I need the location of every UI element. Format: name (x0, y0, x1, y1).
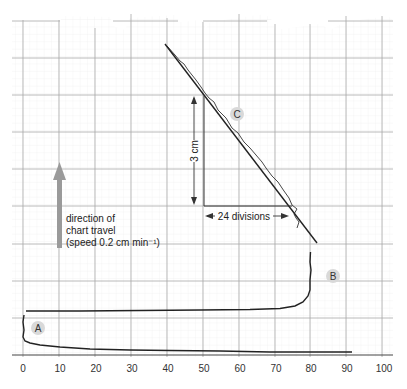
tick-10: 10 (54, 363, 66, 374)
vertical-measure-label: 3 cm (189, 140, 200, 162)
tick-80: 80 (305, 363, 317, 374)
tick-90: 90 (341, 363, 353, 374)
horizontal-measure-label: 24 divisions (218, 211, 270, 222)
chart: 0 10 20 30 40 50 60 70 80 90 100 3 cm 24… (0, 0, 407, 389)
arrow-note-line3: (speed 0.2 cm min⁻¹) (66, 237, 160, 248)
label-b: B (326, 269, 340, 283)
tick-100: 100 (376, 363, 393, 374)
tick-0: 0 (20, 363, 26, 374)
tick-70: 70 (270, 363, 282, 374)
svg-text:B: B (330, 271, 337, 282)
x-tick-labels: 0 10 20 30 40 50 60 70 80 90 100 (20, 363, 393, 374)
tick-40: 40 (162, 363, 174, 374)
arrow-note-line1: direction of (66, 213, 115, 224)
tick-50: 50 (198, 363, 210, 374)
chart-paper (12, 14, 393, 357)
arrow-note-line2: chart travel (66, 225, 115, 236)
label-a: A (31, 321, 45, 335)
svg-text:C: C (233, 109, 240, 120)
svg-text:A: A (35, 323, 42, 334)
label-c: C (230, 107, 244, 121)
tick-60: 60 (234, 363, 246, 374)
tick-30: 30 (126, 363, 138, 374)
tick-20: 20 (90, 363, 102, 374)
